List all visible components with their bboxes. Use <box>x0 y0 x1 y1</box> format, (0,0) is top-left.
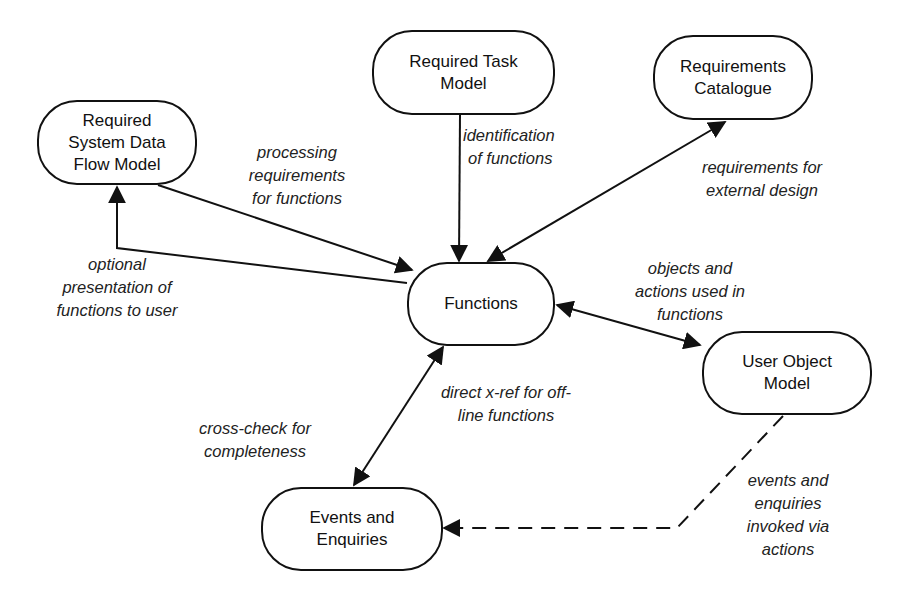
node-label: Events and <box>309 507 394 529</box>
node-label: System Data <box>68 132 165 154</box>
label-direct-xref: direct x-ref for off- line functions <box>421 381 591 427</box>
node-required-task-model[interactable]: Required Task Model <box>372 30 555 115</box>
node-label: Functions <box>444 293 518 315</box>
node-label: Model <box>440 73 486 95</box>
node-requirements-catalogue[interactable]: Requirements Catalogue <box>653 35 813 120</box>
node-label: Enquiries <box>317 529 388 551</box>
edge-identification <box>459 115 460 261</box>
node-label: Required <box>83 110 152 132</box>
label-objects-actions: objects and actions used in functions <box>615 257 765 326</box>
node-label: User Object <box>742 351 832 373</box>
node-functions[interactable]: Functions <box>407 262 555 346</box>
node-user-object-model[interactable]: User Object Model <box>702 331 872 415</box>
label-identification: identification of functions <box>463 124 583 170</box>
label-cross-check: cross-check for completeness <box>185 417 325 463</box>
node-events-and-enquiries[interactable]: Events and Enquiries <box>261 487 443 571</box>
node-label: Requirements <box>680 56 786 78</box>
node-label: Model <box>764 373 810 395</box>
node-label: Required Task <box>409 51 517 73</box>
node-required-system-data-flow-model[interactable]: Required System Data Flow Model <box>37 100 197 185</box>
label-processing-requirements: processing requirements for functions <box>232 141 362 210</box>
label-events-invoked: events and enquiries invoked via actions <box>733 469 843 561</box>
label-optional-presentation: optional presentation of functions to us… <box>37 253 197 322</box>
node-label: Catalogue <box>694 78 772 100</box>
label-external-design: requirements for external design <box>682 156 842 202</box>
node-label: Flow Model <box>74 154 161 176</box>
